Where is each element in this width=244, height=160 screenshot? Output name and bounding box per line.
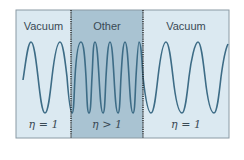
refractive-index-other: η > 1 (71, 118, 143, 131)
refractive-index-left: η = 1 (16, 118, 71, 131)
refractive-index-right: η = 1 (143, 118, 229, 131)
region-label-other: Other (71, 20, 143, 32)
region-label-vacuum-right: Vacuum (143, 20, 229, 32)
region-label-vacuum-left: Vacuum (16, 20, 71, 32)
